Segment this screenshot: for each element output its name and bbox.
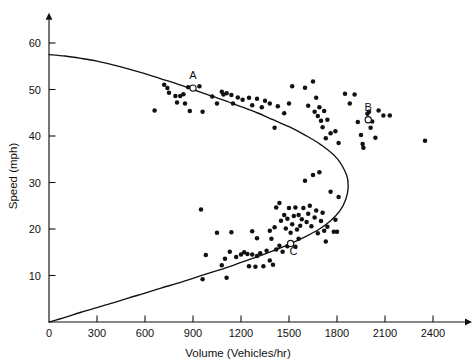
y-axis-title: Speed (mph)	[7, 143, 19, 210]
scatter-point	[234, 255, 239, 260]
scatter-point	[301, 206, 306, 211]
scatter-point	[343, 91, 348, 96]
scatter-point	[260, 105, 265, 110]
scatter-point	[282, 111, 287, 116]
scatter-point	[277, 201, 282, 206]
scatter-point	[356, 120, 361, 125]
scatter-point	[333, 129, 338, 134]
x-tick-label: 900	[184, 327, 202, 339]
scatter-point	[311, 173, 316, 178]
scatter-point	[229, 93, 234, 98]
scatter-point	[269, 237, 274, 242]
y-tick-label: 50	[29, 84, 41, 96]
x-tick-label: 600	[136, 327, 154, 339]
marked-point-a[interactable]	[190, 85, 196, 91]
y-tick-label: 20	[29, 223, 41, 235]
speed-volume-chart: 0300600900120015001800210024001020304050…	[0, 0, 476, 364]
scatter-point	[215, 230, 220, 235]
scatter-point	[290, 222, 295, 227]
scatter-point	[272, 225, 277, 230]
scatter-point	[359, 133, 364, 138]
scatter-point	[316, 114, 321, 119]
scatter-point	[388, 113, 393, 118]
scatter-point	[173, 94, 178, 99]
scatter-point	[296, 213, 301, 218]
scatter-point	[317, 105, 322, 110]
y-tick-label: 30	[29, 177, 41, 189]
scatter-point	[300, 217, 305, 222]
marked-point-label-a: A	[189, 69, 197, 81]
scatter-point	[352, 92, 357, 97]
scatter-point	[284, 226, 289, 231]
scatter-point	[361, 145, 366, 150]
scatter-point	[287, 206, 292, 211]
x-axis-arrow	[465, 319, 472, 326]
x-tick-label: 0	[46, 327, 52, 339]
scatter-point	[309, 224, 314, 229]
scatter-point	[204, 253, 209, 257]
scatter-point	[250, 252, 255, 257]
scatter-point	[296, 237, 301, 242]
marked-point-b[interactable]	[365, 117, 371, 123]
scatter-point	[312, 110, 317, 115]
scatter-point	[319, 118, 324, 123]
y-axis-arrow	[46, 13, 53, 20]
scatter-point	[240, 97, 245, 102]
scatter-point	[279, 218, 284, 223]
y-tick-label: 40	[29, 130, 41, 142]
scatter-point	[293, 205, 298, 210]
scatter-point	[236, 95, 241, 100]
scatter-point	[303, 85, 308, 90]
scatter-point	[231, 101, 236, 106]
scatter-point	[328, 190, 333, 195]
scatter-point	[167, 91, 172, 96]
scatter-point	[320, 210, 325, 215]
scatter-point	[229, 230, 234, 235]
scatter-point	[287, 101, 292, 106]
scatter-point	[152, 108, 157, 113]
scatter-point	[280, 250, 285, 255]
scatter-point	[336, 195, 341, 200]
scatter-point	[175, 100, 180, 105]
scatter-point	[277, 243, 282, 248]
scatter-point	[220, 263, 225, 268]
scatter-point	[288, 230, 293, 235]
scatter-point	[312, 215, 317, 220]
speed-volume-curve	[49, 55, 348, 322]
scatter-point	[423, 138, 428, 143]
scatter-point	[268, 258, 273, 263]
scatter-point	[298, 224, 303, 229]
scatter-point	[376, 108, 381, 113]
scatter-point	[328, 131, 333, 136]
scatter-point	[325, 117, 330, 122]
scatter-point	[276, 104, 281, 109]
scatter-point	[319, 219, 324, 224]
scatter-point	[165, 86, 170, 91]
tick-labels-group: 0300600900120015001800210024001020304050…	[29, 37, 445, 339]
scatter-point	[250, 103, 255, 108]
scatter-point	[255, 97, 260, 102]
scatter-point	[316, 231, 321, 236]
y-tick-label: 10	[29, 270, 41, 282]
scatter-point	[292, 214, 297, 219]
scatter-point	[247, 264, 252, 269]
scatter-point	[271, 263, 276, 268]
scatter-point	[348, 101, 353, 106]
scatter-point	[306, 104, 311, 109]
scatter-point	[306, 211, 311, 216]
scatter-point	[258, 251, 263, 256]
x-tick-label: 2100	[373, 327, 397, 339]
axes-group	[46, 13, 472, 326]
scatter-point	[317, 170, 322, 175]
scatter-point	[322, 109, 327, 114]
scatter-point	[228, 250, 233, 255]
scatter-point	[333, 217, 338, 222]
scatter-point	[303, 178, 308, 183]
scatter-point	[268, 229, 273, 234]
scatter-point	[314, 208, 319, 213]
fitted-curve	[49, 55, 348, 322]
scatter-point	[162, 83, 167, 88]
y-tick-label: 60	[29, 37, 41, 49]
scatter-point	[224, 91, 229, 96]
scatter-point	[360, 142, 365, 147]
